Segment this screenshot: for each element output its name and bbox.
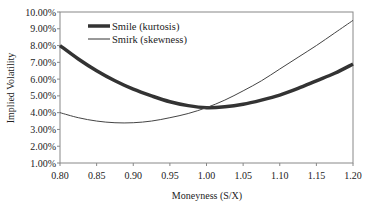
x-tick-label: 1.15 bbox=[308, 170, 326, 181]
x-tick-label: 0.80 bbox=[51, 170, 69, 181]
series-lines bbox=[60, 20, 353, 123]
legend-label-smirk: Smirk (skewness) bbox=[112, 34, 187, 46]
plot-frame bbox=[60, 12, 353, 163]
x-axis: 0.800.850.900.951.001.051.101.151.20 bbox=[51, 163, 362, 181]
y-tick-label: 5.00% bbox=[30, 90, 56, 101]
x-tick-label: 1.05 bbox=[234, 170, 252, 181]
implied-volatility-chart: 1.00%2.00%3.00%4.00%5.00%6.00%7.00%8.00%… bbox=[0, 0, 369, 206]
y-axis: 1.00%2.00%3.00%4.00%5.00%6.00%7.00%8.00%… bbox=[25, 7, 60, 169]
y-tick-label: 9.00% bbox=[30, 23, 56, 34]
chart-svg: 1.00%2.00%3.00%4.00%5.00%6.00%7.00%8.00%… bbox=[0, 0, 369, 206]
legend-label-smile: Smile (kurtosis) bbox=[112, 21, 180, 33]
y-tick-label: 3.00% bbox=[30, 124, 56, 135]
x-tick-label: 0.95 bbox=[161, 170, 179, 181]
y-tick-label: 4.00% bbox=[30, 107, 56, 118]
x-tick-label: 1.00 bbox=[198, 170, 216, 181]
y-tick-label: 10.00% bbox=[25, 7, 56, 18]
x-axis-label: Moneyness (S/X) bbox=[172, 190, 242, 202]
x-tick-label: 1.10 bbox=[271, 170, 289, 181]
y-axis-label: Implied Volatility bbox=[5, 53, 16, 123]
x-tick-label: 0.85 bbox=[88, 170, 106, 181]
smile-line bbox=[60, 46, 353, 108]
y-tick-label: 2.00% bbox=[30, 141, 56, 152]
y-tick-label: 1.00% bbox=[30, 158, 56, 169]
x-tick-label: 0.90 bbox=[125, 170, 143, 181]
y-tick-label: 8.00% bbox=[30, 40, 56, 51]
smirk-line bbox=[60, 20, 353, 123]
x-tick-label: 1.20 bbox=[344, 170, 362, 181]
legend: Smile (kurtosis) Smirk (skewness) bbox=[88, 21, 187, 46]
y-tick-label: 7.00% bbox=[30, 57, 56, 68]
y-tick-label: 6.00% bbox=[30, 74, 56, 85]
